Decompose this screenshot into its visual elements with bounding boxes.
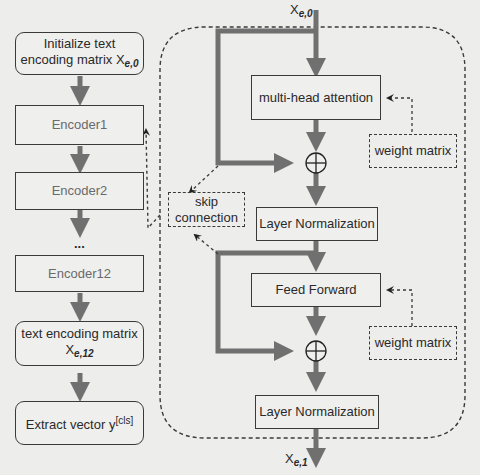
layer-norm-2-box: Layer Normalization [255,395,379,429]
ellipsis: ... [74,236,85,251]
encoder1-label: Encoder1 [52,117,108,133]
output-subscript: e,12 [74,348,93,359]
layer-norm-1-box: Layer Normalization [256,207,378,241]
encoder2-label: Encoder2 [52,183,108,199]
init-line2: encoding matrix X [21,52,125,67]
encoder12-label: Encoder12 [48,266,111,282]
encoder12-box: Encoder12 [15,255,144,292]
skip-line1: skip [195,194,218,209]
multi-head-attention-box: multi-head attention [251,75,381,120]
zoom-link [146,130,160,228]
feed-forward-box: Feed Forward [251,273,381,307]
init-line1: Initialize text [44,36,116,51]
weight-matrix-1: weight matrix [369,134,457,168]
feed-forward-label: Feed Forward [276,282,357,298]
extract-vector-box: Extract vector y[cls] [15,401,144,445]
encoder1-box: Encoder1 [15,105,144,145]
output-line2: X [65,342,74,357]
encoder2-box: Encoder2 [15,172,144,210]
output-line1: text encoding matrix [21,326,137,341]
weight-matrix-1-label: weight matrix [375,143,452,159]
layer-norm-2-label: Layer Normalization [259,404,375,420]
skip-connection-note: skipconnection [168,192,245,227]
init-subscript: e,0 [125,58,139,69]
weight-matrix-2-label: weight matrix [375,335,452,351]
extract-label: Extract vector y [26,417,116,432]
extract-superscript: [cls] [115,415,133,426]
output-label: Xe,1 [285,451,308,468]
mha-label: multi-head attention [259,90,373,106]
layer-norm-1-label: Layer Normalization [259,216,375,232]
weight-matrix-2: weight matrix [369,326,457,360]
init-encoding-box: Initialize text encoding matrix Xe,0 [15,32,144,75]
text-encoding-matrix-box: text encoding matrix Xe,12 [15,321,144,366]
skip-line2: connection [175,210,238,225]
input-label: Xe,0 [290,2,313,19]
